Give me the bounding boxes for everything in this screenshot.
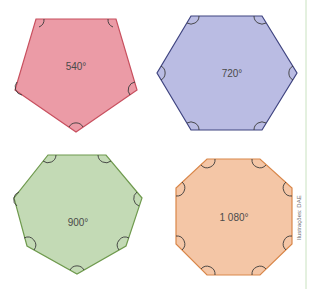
polygon-angle-sum-figure: 540° 720° 900° 1 080° Ilustra (0, 0, 312, 289)
pentagon-angle-sum: 540° (66, 61, 87, 72)
pentagon: 540° (15, 19, 137, 132)
octagon-angle-sum: 1 080° (219, 212, 248, 223)
octagon: 1 080° (176, 159, 292, 275)
heptagon-angle-sum: 900° (68, 217, 89, 228)
heptagon: 900° (14, 155, 142, 274)
hexagon-angle-sum: 720° (222, 68, 243, 79)
illustration-credit: Ilustrações: DAE (296, 195, 302, 240)
hexagon: 720° (157, 16, 297, 130)
